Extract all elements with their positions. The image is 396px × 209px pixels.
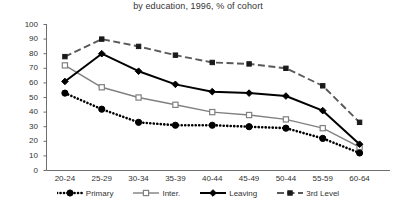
data-point-marker: [210, 190, 217, 197]
series-markers: [62, 37, 363, 156]
legend-label: Inter.: [162, 189, 180, 198]
y-axis-tick-label: 90: [16, 34, 38, 43]
series-lines: [65, 39, 360, 153]
x-axis-tick-label: 45-49: [229, 174, 269, 183]
legend-swatch-icon: [133, 188, 159, 198]
data-point-marker: [172, 81, 179, 88]
y-axis-tick-label: 50: [16, 93, 38, 102]
data-point-marker: [209, 88, 216, 95]
legend-item-3rd-level[interactable]: 3rd Level: [277, 188, 339, 198]
y-axis-tick-label: 10: [16, 151, 38, 160]
data-point-marker: [62, 63, 67, 68]
legend-item-primary[interactable]: Primary: [57, 188, 114, 198]
chart-legend: PrimaryInter.Leaving3rd Level: [0, 188, 396, 198]
data-point-marker: [283, 125, 289, 131]
data-point-marker: [62, 90, 68, 96]
series-line: [65, 54, 360, 145]
data-point-marker: [63, 54, 67, 58]
legend-swatch-icon: [277, 188, 303, 198]
data-point-marker: [136, 95, 141, 100]
data-point-marker: [283, 93, 290, 100]
data-point-marker: [321, 84, 325, 88]
x-axis-tick-label: 60-64: [340, 174, 380, 183]
data-point-marker: [283, 117, 288, 122]
data-point-marker: [284, 66, 288, 70]
data-point-marker: [320, 126, 325, 131]
y-axis-tick-label: 20: [16, 136, 38, 145]
data-point-marker: [210, 110, 215, 115]
x-axis-tick-label: 20-24: [45, 174, 85, 183]
data-point-marker: [100, 37, 104, 41]
legend-label: 3rd Level: [306, 189, 339, 198]
y-axis-tick-label: 70: [16, 63, 38, 72]
data-point-marker: [247, 62, 251, 66]
y-axis-tick-label: 100: [16, 20, 38, 29]
data-point-marker: [173, 102, 178, 107]
x-axis-tick-label: 25-29: [82, 174, 122, 183]
x-axis-tick-label: 35-39: [155, 174, 195, 183]
data-point-marker: [246, 90, 253, 97]
legend-swatch-icon: [57, 188, 83, 198]
data-point-marker: [135, 119, 141, 125]
x-axis-tick-label: 30-34: [119, 174, 159, 183]
data-point-marker: [288, 191, 292, 195]
data-point-marker: [246, 112, 251, 117]
data-point-marker: [209, 122, 215, 128]
y-axis-tick-label: 60: [16, 78, 38, 87]
data-point-marker: [246, 124, 252, 130]
legend-label: Leaving: [229, 189, 257, 198]
data-point-marker: [135, 68, 142, 75]
data-point-marker: [356, 150, 362, 156]
series-line: [65, 65, 360, 147]
data-point-marker: [99, 85, 104, 90]
data-point-marker: [210, 60, 214, 64]
data-point-marker: [144, 190, 149, 195]
data-point-marker: [172, 122, 178, 128]
legend-item-leaving[interactable]: Leaving: [200, 188, 257, 198]
x-axis-tick-label: 40-44: [192, 174, 232, 183]
data-point-marker: [67, 190, 73, 196]
x-axis-tick-label: 55-59: [303, 174, 343, 183]
y-axis-tick-label: 80: [16, 49, 38, 58]
y-axis-tick-label: 30: [16, 122, 38, 131]
data-point-marker: [173, 53, 177, 57]
y-axis-tick-label: 40: [16, 107, 38, 116]
data-point-marker: [320, 135, 326, 141]
x-axis-tick-label: 50-44: [266, 174, 306, 183]
legend-label: Primary: [86, 189, 114, 198]
y-axis-tick-label: 0: [16, 166, 38, 175]
data-point-marker: [136, 44, 140, 48]
legend-swatch-icon: [200, 188, 226, 198]
chart-container: by education, 1996, % of cohort 10090807…: [0, 0, 396, 209]
data-point-marker: [357, 120, 361, 124]
legend-item-inter[interactable]: Inter.: [133, 188, 180, 198]
data-point-marker: [99, 106, 105, 112]
